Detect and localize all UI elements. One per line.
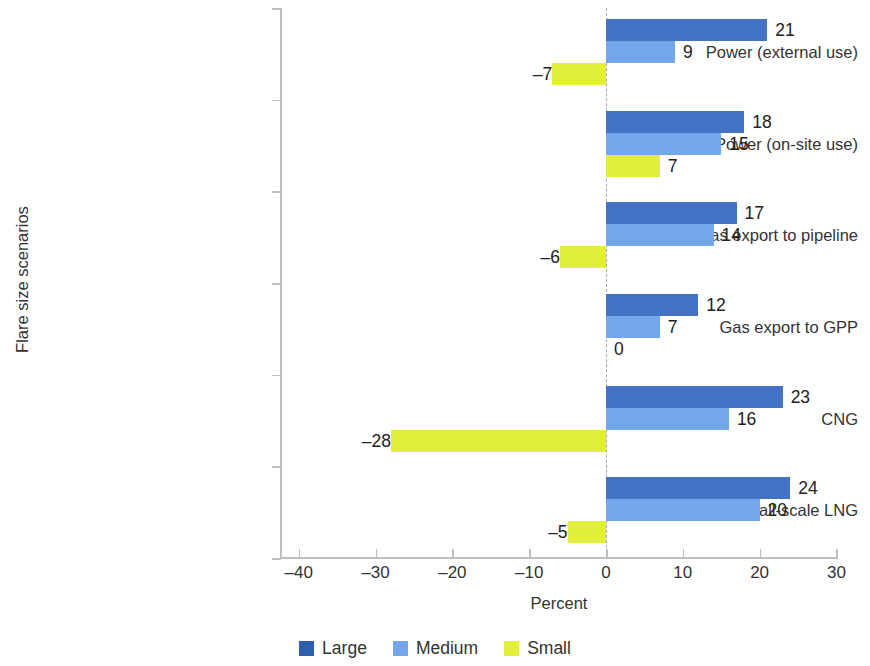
bar-small: [606, 155, 660, 177]
bar-medium: [606, 316, 660, 338]
bar-value-label: 18: [744, 111, 771, 133]
bar-value-label: –28: [311, 430, 399, 452]
bar-value-label: 21: [767, 19, 794, 41]
bar-value-label: –7: [472, 63, 560, 85]
bar-value-label: 16: [729, 408, 756, 430]
bar-value-label: 7: [660, 155, 678, 177]
y-axis-tick: [272, 283, 281, 285]
legend-item-small[interactable]: Small: [504, 638, 571, 659]
x-axis-line: [280, 557, 838, 559]
bar-value-label: 14: [714, 224, 741, 246]
legend-swatch-icon: [299, 641, 314, 656]
bar-large: [606, 386, 783, 408]
bar-large: [606, 294, 698, 316]
bar-medium: [606, 41, 675, 63]
bar-value-label: 17: [737, 202, 764, 224]
bar-value-label: 12: [698, 294, 725, 316]
x-axis-tick-label: –10: [499, 563, 559, 583]
legend-item-medium[interactable]: Medium: [393, 638, 478, 659]
bar-value-label: 15: [721, 133, 748, 155]
y-axis-title: Flare size scenarios: [13, 180, 32, 380]
bar-small: [391, 430, 606, 452]
x-axis-tick: [529, 549, 531, 558]
bar-medium: [606, 133, 721, 155]
y-axis-tick: [272, 466, 281, 468]
x-axis-tick: [760, 549, 762, 558]
bar-large: [606, 111, 744, 133]
x-axis-title: Percent: [280, 594, 838, 613]
legend-swatch-icon: [504, 641, 519, 656]
bar-value-label: –5: [488, 521, 576, 543]
bar-value-label: –6: [480, 246, 568, 268]
legend-swatch-icon: [393, 641, 408, 656]
bar-value-label: 23: [783, 386, 810, 408]
y-axis-tick: [272, 375, 281, 377]
legend-label: Medium: [416, 638, 478, 659]
x-axis-tick-label: –40: [269, 563, 329, 583]
y-axis-tick: [272, 100, 281, 102]
bar-medium: [606, 499, 760, 521]
x-axis-tick-label: 20: [730, 563, 790, 583]
bar-value-label: 0: [606, 338, 624, 360]
bar-value-label: 9: [675, 41, 693, 63]
bar-large: [606, 202, 737, 224]
legend-label: Small: [527, 638, 571, 659]
x-axis-tick: [836, 549, 838, 558]
bar-large: [606, 19, 767, 41]
bar-medium: [606, 224, 714, 246]
x-axis-tick: [683, 549, 685, 558]
bar-value-label: 7: [660, 316, 678, 338]
bar-value-label: 24: [790, 477, 817, 499]
bar-large: [606, 477, 790, 499]
x-axis-tick-label: 10: [653, 563, 713, 583]
x-axis-tick: [606, 549, 608, 558]
bar-medium: [606, 408, 729, 430]
x-axis-tick: [299, 549, 301, 558]
chart-legend: LargeMediumSmall: [0, 638, 870, 659]
x-axis-tick: [452, 549, 454, 558]
legend-label: Large: [322, 638, 367, 659]
x-axis-tick-label: 30: [806, 563, 866, 583]
legend-item-large[interactable]: Large: [299, 638, 367, 659]
x-axis-tick-label: 0: [576, 563, 636, 583]
bar-chart: Flare size scenarios Power (external use…: [0, 0, 870, 666]
bar-small: [552, 63, 606, 85]
y-axis-tick: [272, 8, 281, 10]
y-axis-tick: [272, 191, 281, 193]
zero-reference-line: [606, 8, 607, 558]
x-axis-tick-label: –20: [422, 563, 482, 583]
x-axis-tick: [376, 549, 378, 558]
y-axis-tick: [272, 558, 281, 560]
x-axis-tick-label: –30: [346, 563, 406, 583]
bar-value-label: 20: [760, 499, 787, 521]
